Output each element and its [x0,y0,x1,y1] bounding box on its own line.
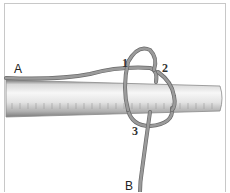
label-crossing-2: 2 [162,61,168,75]
label-end-b: B [125,179,133,192]
rope [6,49,175,193]
label-crossing-1: 1 [122,56,128,70]
label-end-a: A [14,62,22,76]
pole [6,80,222,117]
label-crossing-3: 3 [132,124,138,138]
knot-diagram: A 1 2 3 B [0,0,230,192]
